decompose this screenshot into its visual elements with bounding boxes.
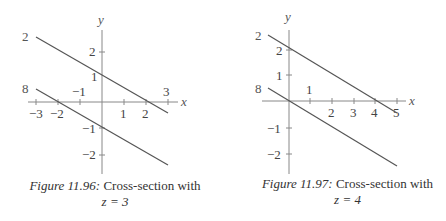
contour-label-2: 2 (22, 29, 29, 44)
y-tick-label: 2 (89, 44, 96, 59)
x-tick-label: 4 (371, 105, 378, 120)
y-tick-label: −2 (82, 147, 96, 162)
x-tick-label: 1 (120, 106, 127, 121)
x-tick-label: 3 (350, 105, 357, 120)
caption-text: Cross-section with (103, 178, 200, 193)
caption-equation: z = 3 (102, 194, 129, 209)
y-tick-label: 1 (276, 68, 283, 83)
y-axis-label: y (96, 12, 104, 27)
x-axis-label: x (408, 93, 415, 108)
contour-label-8: 8 (255, 81, 262, 96)
x-tick-label: −1 (72, 84, 86, 99)
figure-label: Figure 11.96: (29, 178, 100, 193)
x-axis-label: x (180, 94, 187, 109)
x-tick-label: 2 (142, 106, 149, 121)
y-tick-label: −1 (82, 121, 96, 136)
x-tick-label: −2 (50, 106, 64, 121)
figure-11-96-plot: −3 −2 −1 1 2 3 2 1 −1 −2 x y 2 8 (22, 12, 187, 174)
y-tick-label: 2 (276, 43, 283, 58)
figure-11-97-caption: Figure 11.97: Cross-section with z = 4 (245, 176, 446, 208)
caption-equation: z = 4 (334, 192, 361, 207)
y-tick-label: −2 (267, 147, 281, 162)
contour-label-2: 2 (255, 28, 262, 43)
figure-11-97-plot: 1 2 3 4 5 2 1 −1 −2 x y 2 8 (255, 9, 415, 174)
figure-11-96-caption: Figure 11.96: Cross-section with z = 3 (10, 178, 220, 210)
x-tick-label: 1 (306, 82, 313, 97)
x-tick-label: −3 (29, 106, 43, 121)
caption-text: Cross-section with (336, 176, 433, 191)
contour-label-8: 8 (22, 81, 29, 96)
x-tick-label: 3 (163, 84, 170, 99)
y-tick-label: −1 (267, 121, 281, 136)
y-axis-label: y (283, 9, 291, 24)
x-tick-label: 2 (328, 105, 335, 120)
figure-label: Figure 11.97: (262, 176, 333, 191)
